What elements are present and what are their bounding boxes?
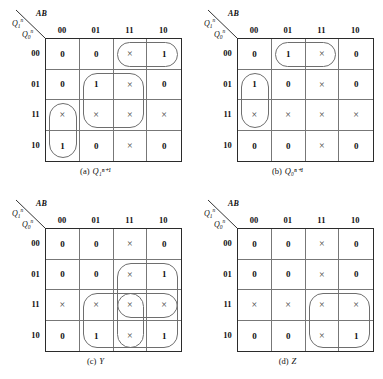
column-header-11: 11 xyxy=(113,212,147,228)
kmap-cell-r10-c00: 0 xyxy=(238,131,272,162)
kmap-cell-r00-c00: 0 xyxy=(238,229,272,260)
kmap-cell-r10-c00: 1 xyxy=(46,131,80,162)
kmap-cell-r01-c01: 0 xyxy=(80,260,114,291)
kmap-d: ABQ1nQ0n000111100001111000×000×0××××00×1 xyxy=(206,198,372,350)
row-headers: 00011110 xyxy=(26,228,45,350)
column-header-10: 10 xyxy=(338,22,372,38)
kmap-corner-header: ABQ1nQ0n xyxy=(206,198,237,228)
kmap-cell-r00-c11: × xyxy=(114,229,148,260)
kmap-cell-r10-c01: 0 xyxy=(272,131,306,162)
column-variable-label: AB xyxy=(36,199,47,208)
column-header-00: 00 xyxy=(237,22,271,38)
kmap-panel-d: ABQ1nQ0n000111100001111000×000×0××××00×1… xyxy=(192,190,383,379)
caption-symbol: Q₁ⁿ⁺¹ xyxy=(90,166,111,176)
kmap-cell-r11-c00: × xyxy=(46,290,80,321)
column-variable-label: AB xyxy=(36,9,47,18)
column-header-10: 10 xyxy=(146,212,180,228)
column-header-11: 11 xyxy=(113,22,147,38)
kmap-cell-r01-c00: 0 xyxy=(238,260,272,291)
kmap-cell-r00-c01: 0 xyxy=(80,229,114,260)
row-headers: 00011110 xyxy=(218,228,237,350)
kmap-cell-r00-c11: × xyxy=(114,39,148,70)
row-header-01: 01 xyxy=(26,69,45,100)
kmap-panel-a: ABQ1nQ0n000111100001111000×101×0××××10×0… xyxy=(0,0,191,189)
column-header-10: 10 xyxy=(146,22,180,38)
column-header-00: 00 xyxy=(237,212,271,228)
column-header-11: 11 xyxy=(305,22,339,38)
column-headers: 00011110 xyxy=(237,22,372,38)
kmap-cell-r10-c11: × xyxy=(114,131,148,162)
kmap-cell-r00-c01: 0 xyxy=(272,229,306,260)
kmap-cell-r11-c11: × xyxy=(306,100,340,131)
kmap-grid: 00×000×0××××00×1 xyxy=(237,228,374,352)
kmap-cell-r01-c11: × xyxy=(306,260,340,291)
kmap-cell-r11-c01: × xyxy=(80,100,114,131)
kmap-corner-header: ABQ1nQ0n xyxy=(206,8,237,38)
column-headers: 00011110 xyxy=(45,22,180,38)
kmap-cell-r10-c11: × xyxy=(306,131,340,162)
kmap-grid: 00×000×1××××01×1 xyxy=(45,228,182,352)
kmap-cell-r10-c10: 1 xyxy=(339,321,373,352)
kmap-caption-b: (b)Q₀ⁿ⁺¹ xyxy=(192,166,383,176)
column-header-01: 01 xyxy=(271,212,305,228)
kmap-cell-r00-c00: 0 xyxy=(46,229,80,260)
kmap-a: ABQ1nQ0n000111100001111000×101×0××××10×0 xyxy=(14,8,180,160)
kmap-cell-r10-c01: 1 xyxy=(80,321,114,352)
kmap-cell-r01-c10: 0 xyxy=(339,70,373,101)
kmap-grid: 01×010×0××××00×0 xyxy=(237,38,374,162)
row-headers: 00011110 xyxy=(26,38,45,160)
row-header-10: 10 xyxy=(26,320,45,351)
kmap-cell-r00-c01: 1 xyxy=(272,39,306,70)
kmap-cell-r01-c11: × xyxy=(114,260,148,291)
kmap-cell-r10-c01: 0 xyxy=(80,131,114,162)
kmap-cell-r10-c11: × xyxy=(306,321,340,352)
row-header-00: 00 xyxy=(218,38,237,69)
figure-karnaugh-maps: ABQ1nQ0n000111100001111000×101×0××××10×0… xyxy=(0,0,383,379)
caption-symbol: Z xyxy=(289,356,297,366)
kmap-cell-r00-c01: 0 xyxy=(80,39,114,70)
column-header-01: 01 xyxy=(79,212,113,228)
kmap-cell-r10-c10: 1 xyxy=(147,321,181,352)
row-header-00: 00 xyxy=(26,38,45,69)
column-variable-label: AB xyxy=(228,199,239,208)
kmap-cell-r01-c10: 0 xyxy=(147,70,181,101)
kmap-corner-header: ABQ1nQ0n xyxy=(14,8,45,38)
column-header-10: 10 xyxy=(338,212,372,228)
row-header-11: 11 xyxy=(218,289,237,320)
caption-tag: (a) xyxy=(80,166,89,176)
column-headers: 00011110 xyxy=(45,212,180,228)
kmap-cell-r01-c01: 0 xyxy=(272,70,306,101)
kmap-cell-r01-c10: 0 xyxy=(339,260,373,291)
row-header-11: 11 xyxy=(218,99,237,130)
kmap-cell-r01-c00: 0 xyxy=(46,260,80,291)
kmap-cell-r11-c10: × xyxy=(147,100,181,131)
kmap-cell-r11-c01: × xyxy=(272,290,306,321)
kmap-cell-r11-c10: × xyxy=(339,290,373,321)
kmap-cell-r00-c10: 0 xyxy=(339,39,373,70)
kmap-c: ABQ1nQ0n000111100001111000×000×1××××01×1 xyxy=(14,198,180,350)
kmap-cell-r00-c10: 1 xyxy=(147,39,181,70)
kmap-cell-r01-c01: 0 xyxy=(272,260,306,291)
row-header-00: 00 xyxy=(218,228,237,259)
kmap-cell-r11-c11: × xyxy=(114,290,148,321)
kmap-cell-r01-c00: 1 xyxy=(238,70,272,101)
kmap-cell-r01-c00: 0 xyxy=(46,70,80,101)
kmap-cell-r11-c00: × xyxy=(46,100,80,131)
caption-tag: (c) xyxy=(87,356,96,366)
row-header-11: 11 xyxy=(26,289,45,320)
kmap-cell-r11-c11: × xyxy=(306,290,340,321)
kmap-cell-r00-c10: 0 xyxy=(147,229,181,260)
kmap-cell-r10-c11: × xyxy=(114,321,148,352)
column-headers: 00011110 xyxy=(237,212,372,228)
caption-tag: (b) xyxy=(272,166,282,176)
kmap-cell-r10-c00: 0 xyxy=(46,321,80,352)
row-header-10: 10 xyxy=(218,130,237,161)
kmap-cell-r11-c00: × xyxy=(238,290,272,321)
kmap-cell-r10-c00: 0 xyxy=(238,321,272,352)
kmap-cell-r11-c10: × xyxy=(147,290,181,321)
caption-symbol: Y xyxy=(96,356,104,366)
kmap-cell-r11-c00: × xyxy=(238,100,272,131)
row-header-10: 10 xyxy=(218,320,237,351)
kmap-caption-a: (a)Q₁ⁿ⁺¹ xyxy=(0,166,191,176)
kmap-caption-c: (c)Y xyxy=(0,356,191,366)
